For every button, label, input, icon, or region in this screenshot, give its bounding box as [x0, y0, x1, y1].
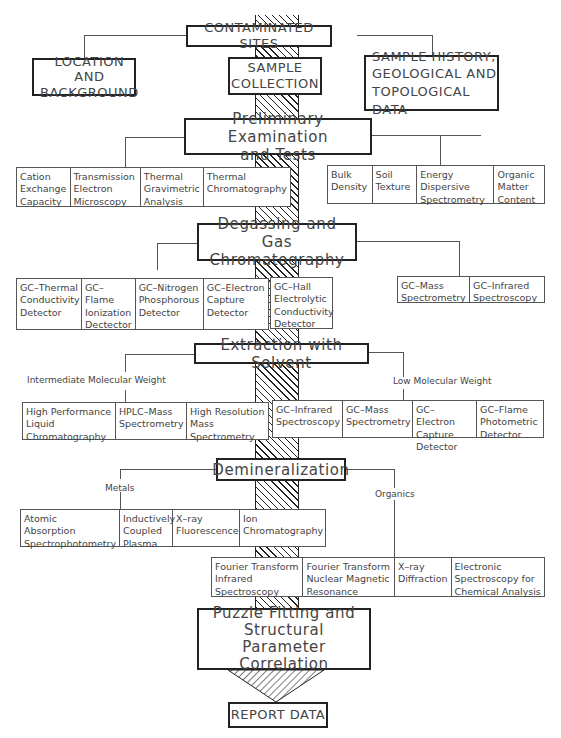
contaminated-sites-label: CONTAMINATED SITES — [188, 20, 330, 51]
organics-label: Organics — [375, 489, 415, 499]
degassing-right-row: GC–Mass Spectrometry GC–Infrared Spectro… — [397, 276, 545, 303]
method-cell: GC–Mass Spectrometry — [343, 401, 413, 437]
method-cell: Ion Chromatography — [240, 510, 326, 546]
connector — [157, 243, 158, 270]
demineralization-title: Demineralization — [212, 461, 349, 479]
connector — [157, 243, 197, 244]
method-cell: X–ray Fluorescence — [173, 510, 240, 546]
extraction-left-row: High Performance Liquid Chromatography H… — [22, 402, 269, 440]
contaminated-sites-box: CONTAMINATED SITES — [186, 25, 332, 47]
method-cell: Fourier Transform Nuclear Magnetic Reson… — [303, 558, 394, 596]
extraction-title: Extraction with Solvent — [196, 336, 367, 372]
preliminary-left-row: Cation Exchange Capacity Transmission El… — [16, 167, 291, 207]
connector — [357, 241, 460, 242]
connector — [125, 137, 126, 167]
connector — [394, 500, 395, 558]
preliminary-right-row: Bulk Density Soil Texture Energy Dispers… — [327, 165, 545, 204]
demineralization-left-row: Atomic Absorption Spectrophotometry Indu… — [20, 509, 326, 547]
method-cell: Electronic Spectroscopy for Chemical Ana… — [452, 558, 544, 596]
preliminary-title: Preliminary Examination and Tests — [186, 110, 370, 164]
method-cell: GC–Hall Electrolytic Conductivity Detect… — [271, 278, 334, 328]
extraction-right-row: GC–Infrared Spectroscopy GC–Mass Spectro… — [272, 400, 544, 438]
low-mw-label: Low Molecular Weight — [393, 376, 491, 386]
method-cell: X–ray Diffraction — [395, 558, 452, 596]
method-cell: GC–Flame Photometric Detector — [477, 401, 543, 437]
connector — [368, 352, 403, 353]
method-cell: GC–Thermal Conductivity Detector — [17, 279, 82, 329]
extraction-box: Extraction with Solvent — [194, 343, 369, 364]
connector — [120, 469, 121, 479]
sample-history-label: SAMPLE HISTORY, GEOLOGICAL AND TOPOLOGIC… — [372, 48, 497, 118]
preliminary-box: Preliminary Examination and Tests — [184, 118, 372, 155]
method-cell: GC–Infrared Spectroscopy — [273, 401, 343, 437]
report-data-box: REPORT DATA — [228, 702, 328, 728]
report-data-label: REPORT DATA — [231, 707, 325, 723]
degassing-box: Degassing and Gas Chromatography — [197, 223, 357, 261]
method-cell: GC–Infrared Spectroscopy — [470, 277, 544, 302]
connector — [125, 354, 126, 372]
method-cell: Bulk Density — [328, 166, 373, 203]
puzzle-fitting-box: Puzzle Fitting and Structural Parameter … — [197, 608, 371, 670]
method-cell: High Resolution Mass Spectrometry — [187, 403, 268, 439]
method-cell: Soil Texture — [373, 166, 418, 203]
method-cell: Organic Matter Content — [494, 166, 544, 203]
method-cell: Transmission Electron Microscopy — [71, 168, 141, 206]
connector — [371, 135, 481, 136]
method-cell: GC–Electron Capture Detector — [413, 401, 477, 437]
connector — [84, 35, 198, 36]
method-cell: HPLC–Mass Spectrometry — [116, 403, 187, 439]
demineralization-box: Demineralization — [216, 458, 346, 481]
connector — [394, 469, 395, 488]
degassing-hall-cell: GC–Hall Electrolytic Conductivity Detect… — [270, 277, 333, 329]
method-cell: GC–Electron Capture Detector — [204, 279, 268, 329]
connector — [440, 135, 441, 165]
method-cell: Cation Exchange Capacity — [17, 168, 71, 206]
sample-history-box: SAMPLE HISTORY, GEOLOGICAL AND TOPOLOGIC… — [364, 55, 499, 111]
connector — [357, 35, 432, 36]
connector — [403, 389, 404, 400]
degassing-title: Degassing and Gas Chromatography — [199, 215, 355, 269]
connector — [125, 137, 185, 138]
method-cell: Atomic Absorption Spectrophotometry — [21, 510, 120, 546]
connector — [120, 492, 121, 509]
location-box: LOCATION AND BACKGROUND — [32, 58, 136, 96]
connector — [403, 352, 404, 377]
method-cell: Inductively Coupled Plasma — [120, 510, 173, 546]
method-cell: Fourier Transform Infrared Spectroscopy — [212, 558, 303, 596]
connector — [345, 469, 394, 470]
method-cell: GC–Nitrogen Phosphorous Detector — [136, 279, 204, 329]
connector — [120, 469, 216, 470]
puzzle-fitting-title: Puzzle Fitting and Structural Parameter … — [199, 605, 369, 674]
metals-label: Metals — [105, 483, 135, 493]
method-cell: Energy Dispersive Spectrometry — [417, 166, 494, 203]
method-cell: Thermal Chromatography — [204, 168, 290, 206]
method-cell: Thermal Gravimetric Analysis — [141, 168, 204, 206]
connector — [125, 354, 195, 355]
method-cell: GC–Mass Spectrometry — [398, 277, 470, 302]
degassing-left-row: GC–Thermal Conductivity Detector GC–Flam… — [16, 278, 269, 330]
sample-collection-box: SAMPLE COLLECTION — [228, 57, 322, 95]
method-cell: High Performance Liquid Chromatography — [23, 403, 116, 439]
method-cell: GC–Flame Ionization Dectector — [82, 279, 136, 329]
location-label: LOCATION AND BACKGROUND — [40, 54, 139, 101]
connector — [459, 241, 460, 276]
demineralization-right-row: Fourier Transform Infrared Spectroscopy … — [211, 557, 545, 597]
intermediate-mw-label: Intermediate Molecular Weight — [27, 375, 166, 385]
sample-collection-label: SAMPLE COLLECTION — [231, 60, 319, 91]
connector — [125, 390, 126, 402]
